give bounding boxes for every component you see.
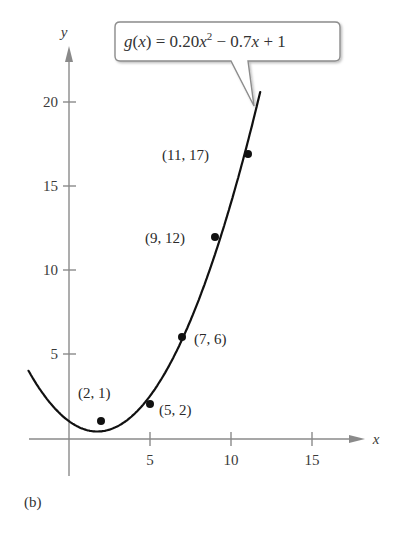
- y-axis-label: y: [59, 24, 68, 40]
- x-axis: x 5 10 15: [29, 431, 380, 468]
- y-tick-label-15: 15: [43, 178, 58, 194]
- quadratic-curve: [29, 92, 261, 431]
- panel-label: (b): [24, 494, 42, 511]
- data-point: [97, 417, 105, 425]
- y-axis-arrow-icon: [65, 46, 73, 62]
- y-tick-label-5: 5: [51, 346, 59, 362]
- data-points: [97, 150, 252, 425]
- point-label: (2, 1): [78, 385, 111, 402]
- data-point: [244, 150, 252, 158]
- x-tick-label-5: 5: [146, 452, 154, 468]
- equation-callout: g(x) = 0.20x2 − 0.7x + 1: [115, 22, 340, 106]
- point-label: (5, 2): [159, 402, 192, 419]
- point-label: (11, 17): [162, 147, 209, 164]
- data-point: [211, 233, 219, 241]
- callout-equation: g(x) = 0.20x2 − 0.7x + 1: [124, 30, 286, 51]
- x-tick-label-10: 10: [224, 452, 239, 468]
- data-point: [178, 333, 186, 341]
- x-axis-arrow-icon: [349, 435, 365, 443]
- chart-figure: y 20 15 10 5 x 5 10 15: [0, 0, 403, 537]
- point-label: (7, 6): [194, 331, 227, 348]
- y-tick-label-10: 10: [43, 262, 58, 278]
- point-label: (9, 12): [145, 230, 185, 247]
- x-axis-label: x: [372, 431, 380, 447]
- y-tick-label-20: 20: [43, 94, 58, 110]
- x-tick-label-15: 15: [305, 452, 320, 468]
- y-axis: y 20 15 10 5: [43, 24, 76, 476]
- data-point: [146, 400, 154, 408]
